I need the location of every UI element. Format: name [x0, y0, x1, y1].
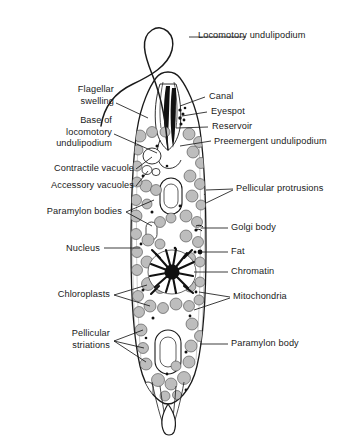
accessory-vacuole-shape [142, 166, 152, 175]
label-reservoir: Reservoir [212, 121, 252, 133]
label-chloroplasts: Chloroplasts [14, 289, 110, 301]
label-mitochondria: Mitochondria [233, 291, 287, 303]
label-fat: Fat [231, 246, 245, 258]
label-preemergent-undulipodium: Preemergent undulipodium [214, 136, 327, 148]
label-pellicular-striations: Pellicular striations [14, 328, 110, 351]
label-accessory-vacuoles: Accessory vacuoles [14, 180, 134, 192]
label-golgi-body: Golgi body [231, 222, 276, 234]
diagram-canvas [0, 0, 352, 440]
fat-droplet-shape [198, 250, 203, 255]
euglena-diagram-figure: Locomotory undulipodium Flagellar swelli… [0, 0, 352, 440]
label-locomotory-undulipodium: Locomotory undulipodium [198, 30, 306, 42]
label-eyespot: Eyespot [211, 106, 245, 118]
label-pellicular-protrusions: Pellicular protrusions [236, 183, 323, 195]
leader-pellicular-protrusions [206, 189, 233, 190]
label-canal: Canal [209, 91, 234, 103]
label-contractile-vacuole: Contractile vacuole [14, 163, 134, 175]
label-paramylon-body: Paramylon body [231, 338, 299, 350]
label-chromatin: Chromatin [231, 266, 274, 278]
label-nucleus: Nucleus [14, 243, 100, 255]
label-base-of-locomotory-undulipodium: Base of locomotory undulipodium [14, 115, 112, 150]
label-flagellar-swelling: Flagellar swelling [36, 84, 114, 107]
label-paramylon-bodies: Paramylon bodies [14, 206, 122, 218]
